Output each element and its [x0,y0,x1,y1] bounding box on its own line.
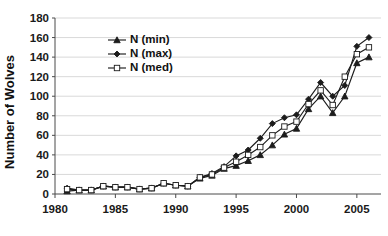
y-tick-label-20: 20 [36,168,49,180]
plot-background [0,0,388,236]
y-tick-label-120: 120 [30,71,49,83]
legend-marker-square-icon [114,65,119,70]
data-point-2-1981 [64,186,69,191]
x-tick-label-1990: 1990 [163,203,189,215]
data-point-2-1984 [101,183,106,188]
data-point-2-1990 [173,183,178,188]
y-axis-title: Number of Wolves [2,55,17,169]
legend-label-0: N (min) [130,33,170,45]
y-tick-label-60: 60 [36,129,49,141]
data-point-2-2000 [294,119,299,124]
data-point-2-2004 [342,74,347,79]
data-point-2-1993 [209,172,214,177]
legend-label-1: N (max) [130,47,172,59]
data-point-2-1983 [89,187,94,192]
data-point-2-2002 [318,88,323,93]
data-point-2-2001 [306,101,311,106]
y-tick-label-0: 0 [43,188,49,200]
data-point-2-1989 [161,181,166,186]
data-point-2-1985 [113,184,118,189]
data-point-2-2005 [354,51,359,56]
data-point-2-1997 [258,144,263,149]
y-tick-label-180: 180 [30,12,49,24]
y-tick-label-160: 160 [30,32,49,44]
y-tick-label-40: 40 [36,149,49,161]
y-tick-label-140: 140 [30,51,49,63]
data-point-2-1987 [137,186,142,191]
x-tick-label-1995: 1995 [223,203,249,215]
data-point-2-1999 [282,124,287,129]
x-tick-label-2005: 2005 [344,203,370,215]
legend-label-2: N (med) [130,61,173,73]
y-tick-label-100: 100 [30,90,49,102]
x-tick-label-1985: 1985 [103,203,129,215]
x-tick-label-2000: 2000 [284,203,310,215]
x-tick-label-1980: 1980 [42,203,68,215]
data-point-2-2006 [366,45,371,50]
data-point-2-2003 [330,102,335,107]
data-point-2-1986 [125,184,130,189]
y-tick-label-80: 80 [36,110,49,122]
data-point-2-1992 [197,175,202,180]
wolf-population-chart: 020406080100120140160180 198019851990199… [0,0,388,236]
data-point-2-1996 [245,152,250,157]
data-point-2-1995 [233,159,238,164]
data-point-2-1982 [76,187,81,192]
data-point-2-1994 [221,165,226,170]
chart-canvas: 020406080100120140160180 198019851990199… [0,0,388,236]
data-point-2-1998 [270,133,275,138]
data-point-2-1988 [149,185,154,190]
data-point-2-1991 [185,183,190,188]
